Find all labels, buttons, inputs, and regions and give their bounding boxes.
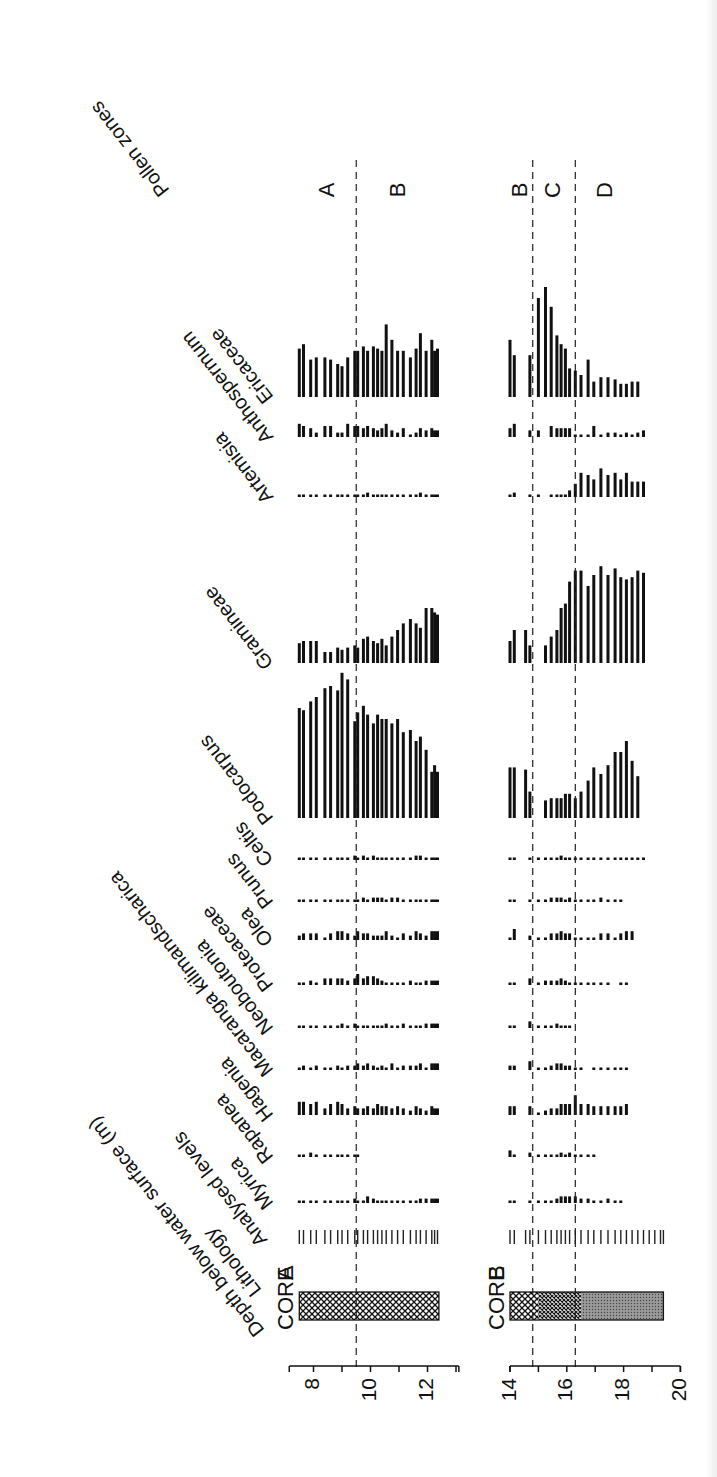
pollen-bar — [336, 1155, 339, 1158]
pollen-bar — [419, 333, 422, 397]
analysed-level-tick — [649, 1230, 650, 1244]
pollen-bar — [409, 495, 412, 498]
pollen-bar — [341, 978, 344, 985]
pollen-bar — [396, 351, 399, 397]
depth-tick-label: 18 — [610, 1378, 633, 1401]
pollen-bar — [599, 1068, 602, 1071]
pollen-bar — [380, 719, 383, 818]
pollen-bar — [513, 493, 516, 497]
depth-tick-label: 14 — [497, 1378, 520, 1402]
analysed-level-tick — [347, 1230, 348, 1244]
pollen-bar — [607, 377, 610, 397]
pollen-bar — [419, 628, 422, 663]
pollen-bar — [509, 1150, 512, 1157]
pollen-bar — [298, 349, 301, 397]
pollen-bar — [353, 900, 356, 903]
pollen-bar — [544, 1111, 547, 1115]
pollen-bar — [430, 900, 433, 903]
pollen-bar — [592, 900, 595, 903]
pollen-bar — [560, 898, 563, 902]
analysed-level-tick — [397, 1230, 398, 1244]
pollen-bar — [528, 1201, 531, 1204]
pollen-bar — [560, 931, 563, 940]
pollen-bar — [336, 648, 339, 663]
pollen-bar — [309, 1153, 312, 1157]
pollen-bar — [362, 898, 365, 902]
pollen-bar — [323, 652, 326, 663]
pollen-bar — [402, 351, 405, 397]
pollen-bar — [625, 858, 628, 861]
analysed-level-tick — [545, 1230, 546, 1244]
pollen-bar — [544, 1026, 547, 1029]
pollen-bar — [402, 623, 405, 663]
pollen-bar — [544, 645, 547, 663]
analysed-level-tick — [431, 1230, 432, 1244]
pollen-bar — [302, 1102, 305, 1115]
pollen-bar — [415, 900, 418, 903]
pollen-bar — [341, 673, 344, 818]
pollen-bar — [568, 1196, 571, 1203]
pollen-bar — [323, 1201, 326, 1204]
pollen-bars: COREAABCOREBBCD — [273, 160, 664, 1370]
pollen-bar — [580, 435, 583, 438]
pollen-bar — [528, 1153, 531, 1157]
pollen-bar — [568, 368, 571, 397]
pollen-bar — [336, 1066, 339, 1070]
pollen-bar — [376, 715, 379, 818]
pollen-bar — [425, 1199, 428, 1203]
pollen-bar — [560, 1063, 563, 1070]
pollen-bar — [436, 900, 439, 903]
pollen-bar — [309, 858, 312, 861]
pollen-bar — [619, 435, 622, 438]
pollen-bar — [433, 1199, 436, 1203]
pollen-bar — [298, 643, 301, 663]
pollen-bar — [555, 1199, 558, 1203]
pollen-bar — [353, 721, 356, 818]
pollen-bar — [315, 495, 318, 498]
pollen-bar — [302, 1026, 305, 1029]
pollen-bar — [625, 384, 628, 397]
pollen-bar — [380, 428, 383, 437]
pollen-bar — [302, 983, 305, 986]
pollen-bar — [396, 898, 399, 902]
analysed-level-tick — [643, 1230, 644, 1244]
pollen-bar — [555, 630, 558, 663]
analysed-level-tick — [310, 1230, 311, 1244]
pollen-bar — [430, 428, 433, 437]
pollen-bar — [376, 430, 379, 437]
pollen-bar — [372, 495, 375, 498]
pollen-bar — [396, 983, 399, 986]
pollen-bar — [607, 575, 610, 663]
pollen-bar — [433, 495, 436, 498]
pollen-bar — [309, 1104, 312, 1115]
pollen-bar — [302, 344, 305, 397]
pollen-bar — [385, 495, 388, 498]
analysed-level-tick — [386, 1230, 387, 1244]
analysed-level-tick — [337, 1230, 338, 1244]
pollen-bar — [513, 1155, 516, 1158]
pollen-bar — [607, 983, 610, 986]
pollen-bar — [380, 495, 383, 498]
pollen-bar — [396, 938, 399, 941]
pollen-bar — [323, 1026, 326, 1029]
pollen-bar — [436, 1108, 439, 1115]
pollen-bar — [580, 983, 583, 986]
pollen-bar — [555, 898, 558, 902]
analysed-level-tick — [593, 1230, 594, 1244]
pollen-bar — [509, 938, 512, 941]
pollen-bar — [302, 495, 305, 498]
pollen-bar — [323, 938, 326, 941]
pollen-bar — [376, 1026, 379, 1029]
zone-label: B — [507, 183, 532, 198]
pollen-bar — [409, 435, 412, 438]
zones-label: Pollen zones — [85, 97, 173, 201]
pollen-bar — [436, 858, 439, 861]
pollen-bar — [336, 978, 339, 985]
pollen-bar — [372, 723, 375, 818]
pollen-bar — [372, 898, 375, 902]
pollen-bar — [509, 340, 512, 397]
pollen-bar — [560, 608, 563, 663]
pollen-bar — [298, 1026, 301, 1029]
analysed-level-tick — [425, 1230, 426, 1244]
pollen-bar — [430, 858, 433, 861]
